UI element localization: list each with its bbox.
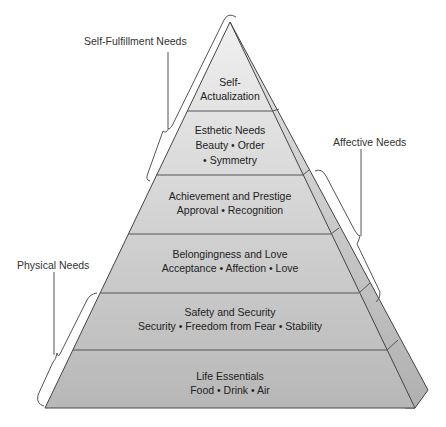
layer-title: Esthetic Needs — [180, 123, 280, 138]
layer-subtitle: Approval • Recognition — [150, 203, 310, 217]
layer-esthetic-needs: Esthetic Needs Beauty • Order • Symmetry — [180, 123, 280, 168]
group-label-affective: Affective Needs — [333, 136, 406, 148]
layer-belongingness-love: Belongingness and Love Acceptance • Affe… — [130, 247, 330, 275]
layer-title: Achievement and Prestige — [150, 189, 310, 203]
layer-subtitle: Acceptance • Affection • Love — [130, 261, 330, 275]
group-label-physical: Physical Needs — [17, 259, 89, 271]
layer-life-essentials: Life Essentials Food • Drink • Air — [130, 369, 330, 397]
layer-achievement-prestige: Achievement and Prestige Approval • Reco… — [150, 189, 310, 217]
layer-safety-security: Safety and Security Security • Freedom f… — [100, 305, 360, 333]
layer-subtitle: Food • Drink • Air — [130, 383, 330, 397]
layer-title: Life Essentials — [130, 369, 330, 383]
layer-title: Safety and Security — [100, 305, 360, 319]
layer-subtitle-cont: • Symmetry — [180, 153, 280, 168]
layer-title: Belongingness and Love — [130, 247, 330, 261]
layer-title: Self- — [190, 75, 270, 89]
layer-subtitle: Beauty • Order — [180, 138, 280, 153]
layer-title-cont: Actualization — [190, 89, 270, 103]
layer-subtitle: Security • Freedom from Fear • Stability — [100, 319, 360, 333]
group-label-self-fulfillment: Self-Fulfillment Needs — [84, 35, 187, 47]
layer-self-actualization: Self- Actualization — [190, 75, 270, 103]
